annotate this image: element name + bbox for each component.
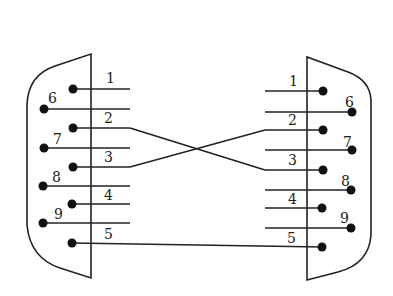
left-label-4: 4 bbox=[104, 187, 113, 203]
right-pin-4 bbox=[318, 204, 327, 213]
left-label-8: 8 bbox=[52, 169, 61, 185]
left-label-6: 6 bbox=[48, 90, 57, 106]
right-pin-wires bbox=[265, 91, 352, 228]
right-pin-5 bbox=[318, 243, 327, 252]
left-label-5: 5 bbox=[104, 226, 113, 242]
left-pin-7 bbox=[40, 144, 49, 153]
right-pin-3 bbox=[319, 166, 328, 175]
right-label-8: 8 bbox=[341, 173, 350, 189]
right-label-4: 4 bbox=[288, 191, 297, 207]
left-pin-5 bbox=[68, 239, 77, 248]
wire-left5-to-right5 bbox=[72, 243, 322, 247]
right-pin-2 bbox=[319, 126, 328, 135]
left-connector-shell bbox=[27, 54, 91, 278]
right-pin-labels: 1 6 2 7 3 8 4 9 5 bbox=[287, 73, 354, 246]
left-pin-labels: 1 6 2 7 3 8 4 9 5 bbox=[48, 70, 115, 242]
left-pin-3 bbox=[69, 163, 78, 172]
left-label-9: 9 bbox=[54, 206, 63, 222]
left-label-3: 3 bbox=[104, 149, 113, 165]
right-label-3: 3 bbox=[288, 152, 297, 168]
right-label-1: 1 bbox=[289, 73, 298, 89]
left-pin-2 bbox=[69, 124, 78, 133]
right-label-9: 9 bbox=[340, 210, 349, 226]
db9-null-modem-diagram: 1 6 2 7 3 8 4 9 5 1 6 2 7 3 8 4 9 5 bbox=[0, 0, 393, 296]
right-label-6: 6 bbox=[345, 94, 354, 110]
left-pin-4 bbox=[68, 200, 77, 209]
right-label-5: 5 bbox=[287, 230, 296, 246]
left-label-2: 2 bbox=[104, 110, 113, 126]
right-pin-1 bbox=[319, 87, 328, 96]
left-pin-1 bbox=[69, 85, 78, 94]
left-pin-9 bbox=[39, 219, 48, 228]
left-label-7: 7 bbox=[53, 131, 62, 147]
right-label-2: 2 bbox=[288, 112, 297, 128]
right-label-7: 7 bbox=[343, 134, 352, 150]
left-pin-8 bbox=[39, 182, 48, 191]
left-pin-wires bbox=[43, 89, 130, 223]
wire-left3-to-right2 bbox=[130, 130, 265, 167]
left-label-1: 1 bbox=[106, 70, 115, 86]
